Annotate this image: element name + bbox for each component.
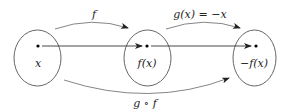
- label-f: f: [91, 8, 98, 21]
- label-fx: f(x): [137, 57, 157, 70]
- function-composition-diagram: x f(x) −f(x) f g(x) = −x g ∘ f: [0, 0, 291, 112]
- point-fx: [145, 44, 148, 47]
- label-g: g(x) = −x: [173, 8, 227, 21]
- point-x: [36, 44, 39, 47]
- label-g-compose-f: g ∘ f: [133, 97, 158, 110]
- label-neg-fx: −f(x): [240, 57, 268, 70]
- f-curved-arrow: [55, 22, 128, 29]
- g-curved-arrow: [166, 22, 240, 29]
- point-neg-fx: [254, 44, 257, 47]
- label-x: x: [35, 57, 42, 70]
